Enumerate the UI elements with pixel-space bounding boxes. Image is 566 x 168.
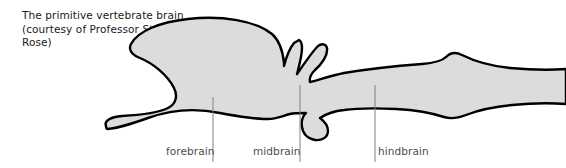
- label-midbrain: midbrain: [253, 145, 301, 158]
- brain-body-shape: [106, 18, 566, 140]
- label-forebrain: forebrain: [166, 145, 215, 158]
- brain-diagram-figure: The primitive vertebrate brain (courtesy…: [0, 0, 566, 168]
- label-hindbrain: hindbrain: [378, 145, 429, 158]
- brain-outline-group: [106, 18, 566, 140]
- brain-illustration: [0, 0, 566, 168]
